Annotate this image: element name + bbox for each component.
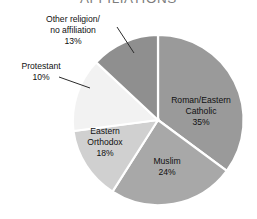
slice-label-line1: Muslim xyxy=(134,156,200,167)
slice-label-roman-eastern-catholic: Roman/Eastern Catholic 35% xyxy=(158,95,244,128)
pie-chart-figure: AFFILIATIONS Roman/Eastern Catholic 35% … xyxy=(0,0,257,219)
callout-label-protestant: Protestant 10% xyxy=(4,61,78,83)
slice-value-label: 35% xyxy=(158,117,244,128)
slice-label-line1: Eastern xyxy=(70,126,140,137)
slice-label-eastern-orthodox: Eastern Orthodox 18% xyxy=(70,126,140,159)
slice-value-label: 24% xyxy=(134,167,200,178)
callout-label-line1: Protestant xyxy=(4,61,78,72)
slice-label-line2: Catholic xyxy=(158,106,244,117)
callout-label-line2: no affiliation xyxy=(24,25,122,36)
slice-label-line1: Roman/Eastern xyxy=(158,95,244,106)
callout-label-other-religion: Other religion/ no affiliation 13% xyxy=(24,14,122,47)
slice-label-line2: Orthodox xyxy=(70,137,140,148)
callout-label-line1: Other religion/ xyxy=(24,14,122,25)
callout-value-label: 10% xyxy=(4,72,78,83)
slice-label-muslim: Muslim 24% xyxy=(134,156,200,178)
callout-value-label: 13% xyxy=(24,36,122,47)
slice-value-label: 18% xyxy=(70,148,140,159)
